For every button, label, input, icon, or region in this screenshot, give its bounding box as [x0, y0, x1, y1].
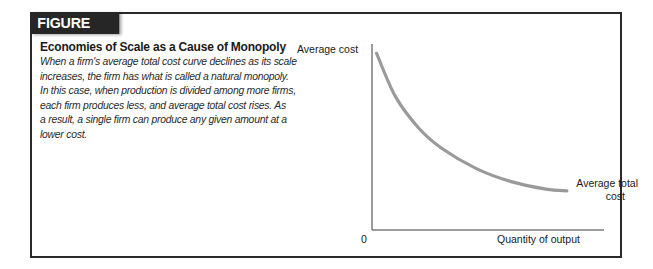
- origin-label: 0: [361, 233, 367, 245]
- cost-chart: [0, 0, 653, 269]
- curve-label-line2: cost: [566, 190, 638, 203]
- curve-label: Average total cost: [566, 177, 638, 203]
- y-axis-label: Average cost: [297, 43, 358, 55]
- average-total-cost-curve: [377, 53, 567, 191]
- curve-label-line1: Average total: [566, 177, 638, 190]
- x-axis-label: Quantity of output: [497, 233, 580, 245]
